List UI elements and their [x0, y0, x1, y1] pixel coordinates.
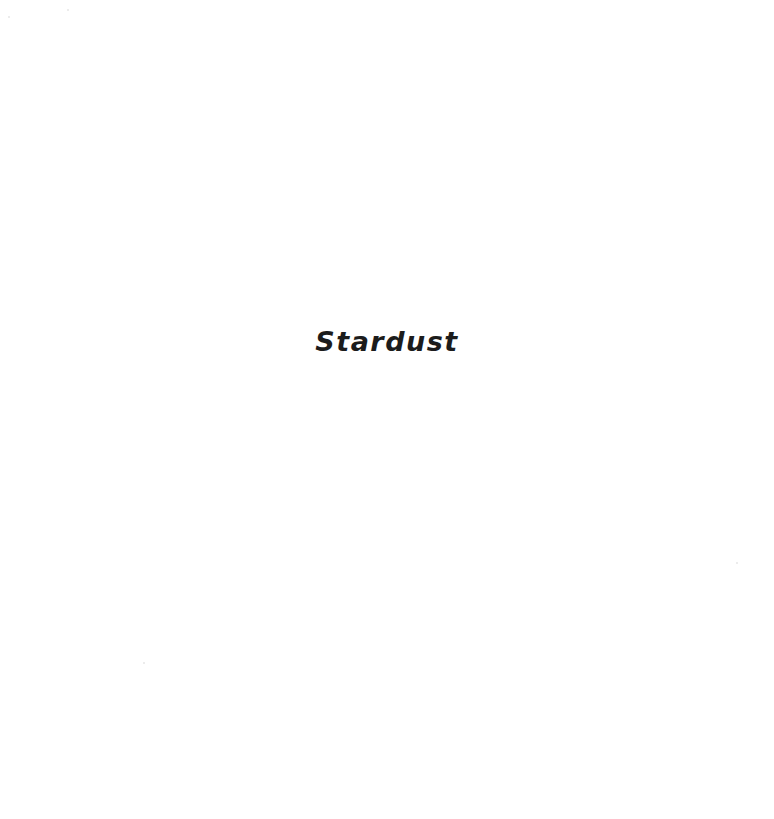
scan-speck	[736, 562, 738, 564]
book-title: Stardust	[0, 323, 774, 361]
scan-speck	[67, 9, 69, 11]
scan-speck	[8, 16, 10, 18]
book-half-title-page: Stardust	[0, 0, 774, 819]
scan-speck	[143, 662, 145, 664]
